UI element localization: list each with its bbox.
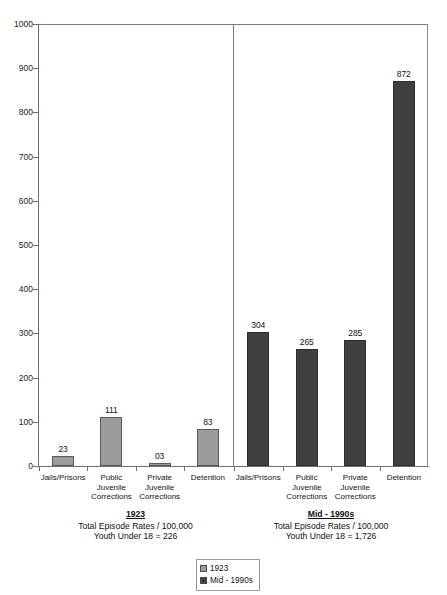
y-axis-tick-label: 100 xyxy=(0,418,33,426)
y-axis-tick-label: 800 xyxy=(0,108,33,116)
panel-caption-left: 1923 Total Episode Rates / 100,000 Youth… xyxy=(38,509,233,542)
y-axis-tick-label: 500 xyxy=(0,241,33,249)
legend-swatch-icon xyxy=(200,565,207,572)
x-axis-category-label: Detention xyxy=(376,473,432,483)
y-axis-tick-label: 900 xyxy=(0,64,33,72)
y-axis-tick-mark xyxy=(33,245,38,246)
bar-value-label: 111 xyxy=(86,406,136,415)
x-axis-tick-mark xyxy=(184,467,185,471)
legend-item-1923: 1923 xyxy=(200,563,253,574)
x-axis-tick-mark xyxy=(39,467,40,471)
bar xyxy=(197,429,219,466)
bar-chart: 10009008007006005004003002001000 2311103… xyxy=(0,0,447,595)
y-axis-line xyxy=(38,24,39,467)
x-axis-tick-mark xyxy=(136,467,137,471)
bar-value-label: 03 xyxy=(135,452,185,461)
y-axis-tick-mark xyxy=(33,378,38,379)
x-axis-tick-mark xyxy=(283,467,284,471)
x-axis-tick-mark xyxy=(331,467,332,471)
y-axis-tick-label: 600 xyxy=(0,197,33,205)
legend-item-mid-1990s: Mid - 1990s xyxy=(200,575,253,586)
bar xyxy=(393,81,415,466)
y-axis-tick-label: 400 xyxy=(0,285,33,293)
panel-caption-right-line1: Total Episode Rates / 100,000 xyxy=(233,521,429,532)
bar xyxy=(149,463,171,466)
x-axis-category-label: Detention xyxy=(180,473,236,483)
legend-label: Mid - 1990s xyxy=(210,576,253,585)
panel-caption-left-title: 1923 xyxy=(38,509,233,520)
y-axis-tick-mark xyxy=(33,289,38,290)
panel-caption-left-line1: Total Episode Rates / 100,000 xyxy=(38,521,233,532)
bar-value-label: 83 xyxy=(183,418,233,427)
y-axis-tick-label: 0 xyxy=(0,462,33,470)
x-axis-tick-mark xyxy=(234,467,235,471)
bar-value-label: 872 xyxy=(379,70,429,79)
bar-value-label: 23 xyxy=(38,445,88,454)
x-axis-tick-mark xyxy=(380,467,381,471)
y-axis-tick-mark xyxy=(33,112,38,113)
bar-value-label: 265 xyxy=(282,338,332,347)
panel-caption-right-line2: Youth Under 18 = 1,726 xyxy=(233,531,429,542)
bar xyxy=(100,417,122,466)
chart-legend: 1923 Mid - 1990s xyxy=(196,559,260,591)
panel-caption-right-title: Mid - 1990s xyxy=(233,509,429,520)
x-axis-tick-mark xyxy=(87,467,88,471)
y-axis-tick-label: 700 xyxy=(0,153,33,161)
panel-divider-line xyxy=(233,24,234,467)
bar xyxy=(344,340,366,466)
y-axis-tick-label: 300 xyxy=(0,329,33,337)
y-axis-tick-mark xyxy=(33,157,38,158)
y-axis-tick-mark xyxy=(33,333,38,334)
y-axis-tick-mark xyxy=(33,201,38,202)
legend-swatch-icon xyxy=(200,577,207,584)
panel-caption-right: Mid - 1990s Total Episode Rates / 100,00… xyxy=(233,509,429,542)
y-axis-tick-mark xyxy=(33,466,38,467)
bar xyxy=(296,349,318,466)
bar xyxy=(247,332,269,466)
legend-label: 1923 xyxy=(210,564,228,573)
y-axis-tick-mark xyxy=(33,68,38,69)
panel-caption-left-line2: Youth Under 18 = 226 xyxy=(38,531,233,542)
y-axis-tick-label: 1000 xyxy=(0,20,33,28)
y-axis-tick-label: 200 xyxy=(0,374,33,382)
bar-value-label: 285 xyxy=(330,329,380,338)
bar xyxy=(52,456,74,466)
bar-value-label: 304 xyxy=(233,321,283,330)
y-axis-tick-mark xyxy=(33,422,38,423)
y-axis-tick-mark xyxy=(33,24,38,25)
